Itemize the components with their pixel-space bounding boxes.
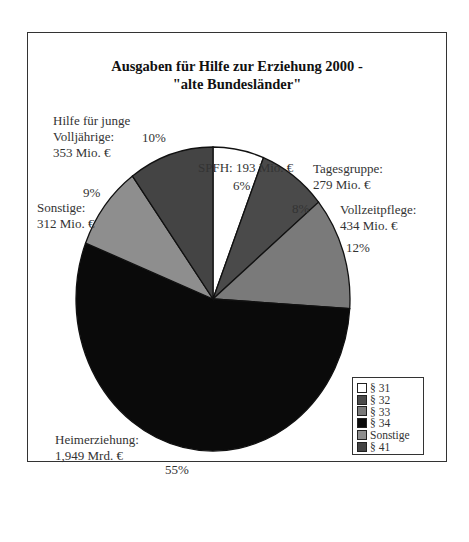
label-volljaehrige-line2: Volljährige: [53, 129, 130, 145]
label-vollzeitpflege: Vollzeitpflege: 434 Mio. € [340, 202, 416, 234]
label-tagesgruppe-name: Tagesgruppe: [313, 161, 383, 177]
legend-item-sonstige: Sonstige [357, 429, 423, 441]
pct-heimerziehung: 55% [165, 462, 189, 478]
label-sonstige-name: Sonstige: [37, 200, 94, 216]
label-tagesgruppe-amount: 279 Mio. € [313, 177, 383, 193]
legend-swatch-sonstige [357, 430, 367, 440]
chart-legend: § 31 § 32 § 33 § 34 Sonstige § 41 [352, 377, 424, 455]
legend-swatch-33 [357, 406, 367, 416]
label-heimerziehung-amount: 1,949 Mrd. € [55, 448, 139, 464]
label-volljaehrige-line1: Hilfe für junge [53, 113, 130, 129]
pct-spfh: 6% [233, 178, 250, 194]
legend-swatch-41 [357, 442, 367, 452]
label-heimerziehung-name: Heimerziehung: [55, 432, 139, 448]
pct-vollzeitpflege: 12% [346, 240, 370, 256]
legend-item-34: § 34 [357, 417, 423, 429]
pct-sonstige: 9% [83, 185, 100, 201]
label-vollzeitpflege-name: Vollzeitpflege: [340, 202, 416, 218]
label-tagesgruppe: Tagesgruppe: 279 Mio. € [313, 161, 383, 193]
pie-slices [76, 147, 350, 451]
legend-item-31: § 31 [357, 382, 423, 394]
label-volljaehrige: Hilfe für junge Volljährige: 353 Mio. € [53, 113, 130, 161]
legend-swatch-31 [357, 383, 367, 393]
label-sonstige-amount: 312 Mio. € [37, 216, 94, 232]
legend-item-32: § 32 [357, 394, 423, 406]
label-sonstige: Sonstige: 312 Mio. € [37, 200, 94, 232]
label-volljaehrige-amount: 353 Mio. € [53, 145, 130, 161]
label-vollzeitpflege-amount: 434 Mio. € [340, 218, 416, 234]
legend-item-41: § 41 [357, 441, 423, 453]
label-spfh: SPFH: 193 Mio. € [198, 160, 293, 176]
label-heimerziehung: Heimerziehung: 1,949 Mrd. € [55, 432, 139, 464]
legend-swatch-34 [357, 418, 367, 428]
pct-tagesgruppe: 8% [292, 201, 309, 217]
legend-swatch-32 [357, 395, 367, 405]
pct-volljaehrige: 10% [142, 130, 166, 146]
legend-item-33: § 33 [357, 406, 423, 418]
